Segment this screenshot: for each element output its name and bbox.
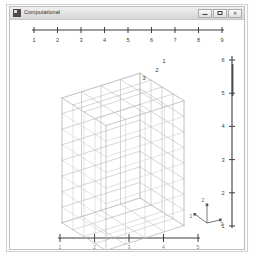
mesh-plot-svg: 123456789 654321 12345	[10, 20, 244, 249]
top-ruler-tick-label: 4	[103, 37, 106, 43]
axis-triad: 123	[190, 197, 224, 227]
right-ruler-tick-label: 5	[221, 90, 224, 96]
close-button[interactable]: ✕	[228, 9, 242, 18]
app-window-icon	[13, 9, 21, 17]
mesh-corner-label: 2	[155, 66, 159, 73]
application-window: Computational ✕ 123456789	[9, 6, 245, 250]
top-ruler-tick-label: 3	[79, 37, 82, 43]
axis-triad-label: 2	[202, 197, 205, 203]
mesh-block[interactable]	[62, 73, 184, 249]
bottom-ruler: 12345	[58, 234, 200, 249]
mesh-corner-label: 1	[162, 57, 166, 64]
right-ruler-tick-label: 3	[221, 157, 224, 163]
mesh-grid-lines	[62, 73, 184, 249]
right-ruler-tick-label: 4	[221, 123, 224, 129]
right-ruler-labels: 654321	[221, 57, 224, 229]
top-ruler-tick-label: 1	[32, 37, 35, 43]
mesh-corner-label: 3	[142, 74, 146, 81]
top-ruler-tick-label: 8	[197, 37, 200, 43]
mesh-plot[interactable]: 123456789 654321 12345	[10, 20, 244, 249]
top-ruler-tick-label: 6	[150, 37, 153, 43]
close-icon: ✕	[233, 11, 237, 16]
axis-triad-label: 3	[221, 221, 224, 227]
maximize-icon	[218, 11, 223, 15]
bottom-ruler-tick-label: 2	[93, 244, 96, 249]
right-ruler-tick-label: 6	[221, 57, 224, 63]
right-ruler-tick-label: 2	[221, 190, 224, 196]
maximize-button[interactable]	[213, 9, 227, 18]
right-ruler: 654321	[221, 56, 235, 229]
axis-triad-label: 1	[190, 213, 193, 219]
page-bottom-strip	[0, 252, 254, 271]
plot-client-area[interactable]: 123456789 654321 12345	[10, 20, 244, 249]
top-ruler-labels: 123456789	[32, 37, 223, 43]
top-ruler-tick-label: 5	[126, 37, 129, 43]
bottom-ruler-tick-label: 4	[162, 244, 165, 249]
bottom-ruler-tick-label: 3	[128, 244, 131, 249]
minimize-button[interactable]	[198, 9, 212, 18]
bottom-ruler-tick-label: 5	[197, 244, 200, 249]
window-titlebar[interactable]: Computational ✕	[10, 7, 244, 20]
window-controls: ✕	[198, 9, 242, 18]
top-ruler: 123456789	[32, 27, 224, 43]
bottom-ruler-labels: 12345	[59, 244, 200, 249]
mesh-corner-labels: 123	[142, 57, 166, 81]
top-ruler-tick-label: 7	[173, 37, 176, 43]
screen-root: Computational ✕ 123456789	[0, 0, 254, 271]
top-ruler-tick-label: 2	[56, 37, 59, 43]
top-ruler-tick-label: 9	[220, 37, 223, 43]
window-title: Computational	[24, 10, 198, 15]
bottom-ruler-tick-label: 1	[59, 244, 62, 249]
minimize-icon	[203, 14, 208, 15]
